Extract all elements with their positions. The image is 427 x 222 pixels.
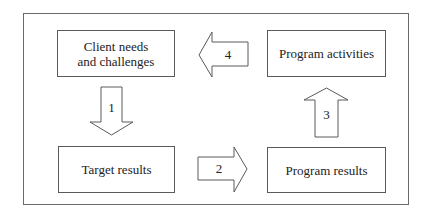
arrows-layer: 1 2 3 4 <box>0 0 427 222</box>
arrow-2-label: 2 <box>216 161 223 176</box>
arrow-right-icon: 2 <box>198 147 247 192</box>
arrow-left-icon: 4 <box>199 32 248 77</box>
arrow-1-label: 1 <box>108 100 115 115</box>
arrow-up-icon: 3 <box>304 88 348 137</box>
arrow-4-label: 4 <box>225 47 232 62</box>
arrow-3-label: 3 <box>323 107 330 122</box>
arrow-down-icon: 1 <box>90 87 133 135</box>
